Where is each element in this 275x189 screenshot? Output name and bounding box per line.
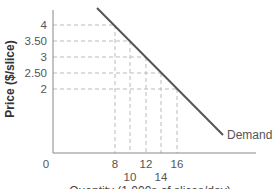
- y-tick-4: 4: [41, 19, 48, 31]
- y-tick-2: 2: [41, 83, 47, 95]
- x-tick-16: 16: [171, 158, 184, 170]
- x-tick-10: 10: [124, 171, 137, 183]
- y-axis-label: Price ($/slice): [3, 40, 17, 117]
- y-tick-2.50: 2.50: [25, 67, 47, 79]
- x-tick-8: 8: [112, 158, 118, 170]
- demand-line: [97, 8, 223, 135]
- y-tick-3.50: 3.50: [25, 35, 47, 47]
- demand-label: Demand: [227, 128, 272, 142]
- y-tick-3: 3: [41, 51, 47, 63]
- demand-chart: Demand 4 3.50 3 2.50 2 0 8 10 12 14 16 P…: [0, 0, 275, 189]
- x-tick-14: 14: [155, 171, 168, 183]
- x-tick-0: 0: [43, 158, 49, 170]
- x-axis-label: Quantity (1,000s of slices/day): [69, 184, 230, 189]
- x-tick-12: 12: [140, 158, 153, 170]
